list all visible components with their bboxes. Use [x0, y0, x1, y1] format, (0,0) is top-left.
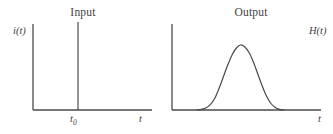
y-axis-label-output: H(t)	[309, 25, 327, 36]
tick-label-t0: t0	[70, 113, 77, 127]
figure-container: Input i(t) t t0 Output H(t) t	[0, 0, 333, 134]
x-axis-label-input: t	[139, 113, 142, 124]
panel-input: Input i(t) t t0	[0, 0, 166, 134]
y-axis-label-input: i(t)	[13, 25, 26, 36]
tick-label-t0-subscript: 0	[73, 118, 77, 127]
panel-output: Output H(t)	[166, 0, 333, 134]
bell-curve	[197, 45, 284, 110]
x-axis-label-output: t	[318, 113, 321, 124]
output-plot-svg	[166, 0, 333, 134]
